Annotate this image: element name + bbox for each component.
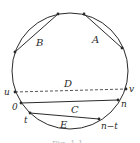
label-zero: 0 [12, 102, 18, 112]
vertex-t [29, 112, 32, 115]
label-v: v [129, 84, 134, 94]
figure-caption: Fig. 1.1 [52, 139, 83, 143]
vertex [83, 13, 86, 16]
chord-c [21, 100, 118, 103]
vertex-n-minus-t [98, 118, 101, 121]
label-c: C [71, 104, 79, 115]
vertex-u [14, 91, 17, 94]
vertex [57, 13, 60, 16]
label-n: n [121, 99, 127, 109]
label-u: u [4, 87, 10, 97]
label-b: B [35, 37, 43, 48]
vertex [14, 51, 17, 54]
vertex [121, 47, 124, 50]
chord-a [84, 14, 122, 48]
label-n-minus-t: n−t [101, 121, 118, 131]
label-t: t [24, 115, 28, 125]
label-e: E [59, 119, 68, 130]
circle [12, 13, 128, 129]
vertex-v [125, 88, 128, 91]
label-a: A [91, 34, 99, 45]
vertex-n [117, 99, 120, 102]
label-d: D [63, 78, 72, 89]
chord-d-dashed [15, 89, 126, 92]
vertex-0 [20, 102, 23, 105]
circle-diagram: B A D C E u v 0 n t n−t Fig. 1.1 [0, 0, 140, 143]
